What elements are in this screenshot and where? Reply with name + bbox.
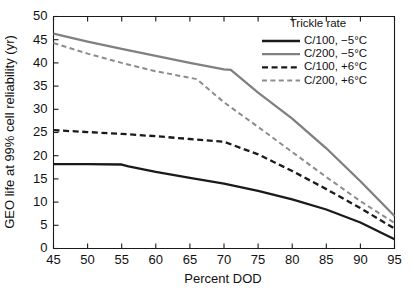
y-tick-label-30: 30 [33, 101, 47, 116]
line-chart: 05101520253035404550 4550556065707580859… [0, 0, 414, 290]
x-tick-label-45: 45 [46, 252, 60, 267]
chart-figure: 05101520253035404550 4550556065707580859… [0, 0, 414, 290]
x-axis-title: Percent DOD [184, 271, 261, 286]
x-tick-label-85: 85 [319, 252, 333, 267]
x-tick-label-90: 90 [353, 252, 367, 267]
y-tick-label-50: 50 [33, 8, 47, 23]
y-tick-label-25: 25 [33, 124, 47, 139]
legend-label-2: C/200, −5°C [304, 47, 367, 59]
y-tick-label-35: 35 [33, 78, 47, 93]
x-tick-label-70: 70 [217, 252, 231, 267]
x-tick-label-95: 95 [387, 252, 401, 267]
legend-title: Trickle rate [290, 17, 346, 29]
x-tick-label-60: 60 [149, 252, 163, 267]
x-tick-label-55: 55 [114, 252, 128, 267]
y-tick-label-20: 20 [33, 148, 47, 163]
y-tick-label-10: 10 [33, 194, 47, 209]
y-tick-label-5: 5 [40, 217, 47, 232]
legend-label-3: C/100, +6°C [304, 60, 367, 72]
x-tick-label-65: 65 [183, 252, 197, 267]
x-tick-label-75: 75 [251, 252, 265, 267]
x-tick-label-50: 50 [80, 252, 94, 267]
legend-label-4: C/200, +6°C [304, 74, 367, 86]
y-axis-title: GEO life at 99% cell reliability (yr) [2, 35, 17, 229]
legend-label-1: C/100, −5°C [304, 34, 367, 46]
y-tick-label-40: 40 [33, 55, 47, 70]
y-tick-label-15: 15 [33, 171, 47, 186]
y-tick-label-45: 45 [33, 32, 47, 47]
x-tick-label-80: 80 [285, 252, 299, 267]
